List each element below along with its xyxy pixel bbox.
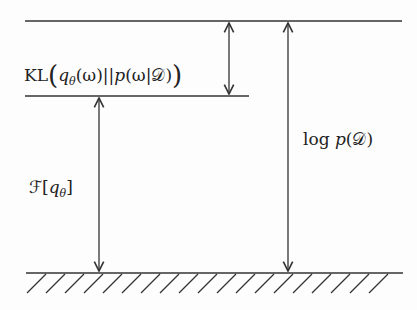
hatch-stroke	[179, 274, 198, 293]
big-paren-open: (	[48, 60, 58, 90]
free-energy-label: ℱ[qθ]	[29, 177, 73, 200]
hatch-stroke	[84, 274, 103, 293]
hatch-stroke	[369, 274, 388, 293]
diagram-svg	[0, 0, 417, 310]
kl-prefix: KL	[24, 65, 48, 85]
big-paren-close: )	[172, 60, 182, 90]
hatch-stroke	[27, 274, 46, 293]
kl-q-sub: θ	[69, 75, 76, 88]
kl-divergence-label: KL(qθ(ω)||p(ω|𝒟))	[24, 60, 182, 90]
free-q: q	[49, 177, 60, 197]
hatch-stroke	[274, 274, 293, 293]
hatch-stroke	[141, 274, 160, 293]
hatch-stroke	[255, 274, 274, 293]
free-bracket-open: [	[42, 177, 49, 197]
kl-q: q	[58, 65, 69, 85]
kl-p: p	[114, 65, 125, 85]
hatch-stroke	[236, 274, 255, 293]
kl-sep: ||	[103, 65, 114, 85]
logp-arg: (𝒟)	[346, 129, 373, 149]
elbo-diagram: KL(qθ(ω)||p(ω|𝒟)) ℱ[qθ] log p(𝒟)	[0, 0, 417, 310]
hatch-stroke	[293, 274, 312, 293]
hatch-stroke	[122, 274, 141, 293]
hatch-stroke	[160, 274, 179, 293]
log-evidence-label: log p(𝒟)	[303, 129, 373, 149]
free-bracket-close: ]	[66, 177, 73, 197]
logp-log: log	[303, 129, 330, 149]
hatch-stroke	[198, 274, 217, 293]
ground-hatching	[27, 274, 388, 293]
hatch-stroke	[103, 274, 122, 293]
free-F: ℱ	[29, 177, 42, 197]
kl-p-arg: (ω|𝒟)	[125, 65, 172, 85]
hatch-stroke	[331, 274, 350, 293]
hatch-stroke	[65, 274, 84, 293]
hatch-stroke	[217, 274, 236, 293]
logp-p: p	[335, 129, 346, 149]
hatch-stroke	[312, 274, 331, 293]
hatch-stroke	[350, 274, 369, 293]
kl-q-arg: (ω)	[76, 65, 103, 85]
hatch-stroke	[46, 274, 65, 293]
